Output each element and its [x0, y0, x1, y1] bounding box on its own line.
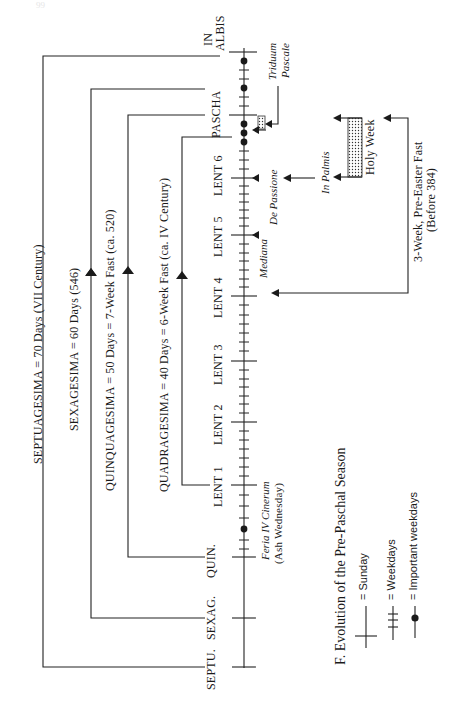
sunday-label-lent-5: LENT 5	[212, 216, 224, 257]
sunday-label-albis: ALBIS	[214, 15, 226, 51]
legend-sunday-text: = Sunday	[358, 553, 369, 600]
figure-caption: F. Evolution of the Pre-Paschal Season	[334, 448, 348, 665]
period-label-septuagesima: SEPTUAGESIMA = 70 Days (VII Century)	[32, 244, 44, 464]
period-label-quinquagesima: QUINQUAGESIMA = 50 Days = 7-Week Fast (c…	[104, 209, 116, 491]
annotation-holy-week: Holy Week	[364, 119, 376, 175]
period-label-sexagesima: SEXAGESIMA = 60 Days (546)	[68, 268, 80, 431]
annotation-in-palmis: In Palmis	[320, 152, 331, 194]
legend-important-text: = Important weekdays	[408, 492, 419, 600]
annotation-three-week-fast: 3-Week, Pre-Easter Fast	[412, 141, 424, 262]
legend-symbols	[355, 606, 415, 648]
period-label-quadragesima: QUADRAGESIMA = 40 Days = 6-Week Fast (ca…	[158, 178, 170, 492]
sunday-label-lent-3: LENT 3	[212, 344, 224, 385]
annotation-mediana: Mediana	[258, 239, 269, 278]
sunday-label-septu: SEPTU.	[205, 649, 217, 690]
sunday-label-lent-1: LENT 1	[212, 466, 224, 507]
annotation-triduum: Triduum	[267, 43, 278, 80]
sunday-label-lent-6: LENT 6	[212, 155, 224, 196]
sunday-label-quin: QUIN.	[205, 544, 217, 578]
sunday-label-pascha: PASCHA	[210, 91, 222, 138]
sunday-label-lent-2: LENT 2	[212, 404, 224, 445]
annotation-pascale: Pascale	[280, 43, 291, 78]
annotation-ash-wednesday-line1: Feria IV Cinerum	[260, 481, 271, 560]
sunday-label-lent-4: LENT 4	[212, 277, 224, 318]
annotation-three-week-date: (Before 384)	[425, 168, 437, 232]
sunday-label-sexag: SEXAG.	[205, 596, 217, 640]
annotation-de-passione: De Passione	[268, 170, 279, 225]
legend-weekdays-text: = Weekdays	[386, 539, 397, 600]
annotation-ash-wednesday-line2: (Ash Wednesday)	[273, 483, 284, 564]
